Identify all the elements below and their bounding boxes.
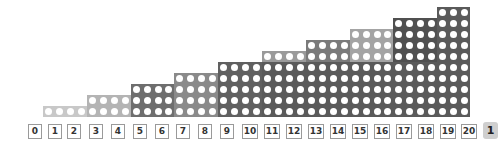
dot-cell: [251, 95, 262, 106]
dot-cell: [273, 106, 284, 117]
dot-cell: [109, 95, 120, 106]
dot-icon: [308, 97, 315, 104]
dot-icon: [100, 108, 107, 115]
dot-cell: [207, 106, 218, 117]
dot-icon: [275, 64, 282, 71]
dot-icon: [286, 108, 293, 115]
dot-icon: [56, 108, 63, 115]
dot-icon: [176, 75, 183, 82]
dot-icon: [461, 97, 468, 104]
dot-cell: [339, 73, 350, 84]
dot-cell: [317, 84, 328, 95]
dot-icon: [374, 86, 381, 93]
dot-cell: [361, 84, 372, 95]
number-box: 15: [352, 124, 368, 139]
dot-icon: [428, 31, 435, 38]
dot-icon: [417, 31, 424, 38]
dot-cell: [426, 106, 437, 117]
dot-icon: [242, 108, 249, 115]
dot-cell: [393, 62, 404, 73]
dot-icon: [187, 86, 194, 93]
dot-cell: [317, 62, 328, 73]
dot-icon: [286, 97, 293, 104]
dot-icon: [439, 53, 446, 60]
number-box: 12: [286, 124, 302, 139]
dot-icon: [275, 75, 282, 82]
dot-cell: [163, 95, 174, 106]
dot-cell: [382, 84, 393, 95]
number-box: 9: [220, 124, 234, 139]
dot-cell: [361, 95, 372, 106]
dot-icon: [363, 31, 370, 38]
dot-icon: [395, 42, 402, 49]
dot-cell: [459, 51, 470, 62]
dot-icon: [384, 64, 391, 71]
dot-cell: [361, 73, 372, 84]
dot-cell: [131, 84, 142, 95]
dot-cell: [382, 106, 393, 117]
dot-icon: [374, 31, 381, 38]
dot-cell: [459, 106, 470, 117]
dot-staircase-diagram: 01234567891011121314151617181920 1: [0, 0, 500, 151]
number-box: 7: [176, 124, 190, 139]
dot-icon: [187, 75, 194, 82]
dot-cell: [339, 51, 350, 62]
dot-icon: [395, 75, 402, 82]
dot-cell: [207, 95, 218, 106]
dot-cell: [273, 84, 284, 95]
dot-icon: [406, 86, 413, 93]
dot-icon: [384, 97, 391, 104]
dot-icon: [406, 75, 413, 82]
dot-cell: [109, 106, 120, 117]
dot-cell: [426, 95, 437, 106]
dot-icon: [428, 64, 435, 71]
dot-icon: [209, 86, 216, 93]
dot-cell: [382, 62, 393, 73]
dot-icon: [352, 86, 359, 93]
dot-cell: [43, 106, 54, 117]
dot-icon: [417, 108, 424, 115]
dot-icon: [406, 108, 413, 115]
dot-icon: [187, 108, 194, 115]
dot-icon: [264, 97, 271, 104]
dot-icon: [363, 108, 370, 115]
dot-cell: [382, 29, 393, 40]
dot-cell: [163, 106, 174, 117]
dot-icon: [165, 97, 172, 104]
dot-icon: [395, 20, 402, 27]
dot-cell: [350, 51, 361, 62]
dot-icon: [198, 97, 205, 104]
dot-icon: [209, 108, 216, 115]
dot-cell: [65, 106, 76, 117]
dot-cell: [404, 62, 415, 73]
dot-cell: [339, 106, 350, 117]
dot-cell: [404, 106, 415, 117]
dot-cell: [185, 73, 196, 84]
dot-cell: [317, 73, 328, 84]
dot-cell: [426, 40, 437, 51]
dot-icon: [450, 108, 457, 115]
dot-icon: [297, 97, 304, 104]
dot-cell: [295, 51, 306, 62]
dot-cell: [415, 18, 426, 29]
dot-icon: [122, 108, 129, 115]
dot-cell: [295, 73, 306, 84]
dot-icon: [209, 75, 216, 82]
dot-icon: [67, 108, 74, 115]
dot-cell: [142, 84, 153, 95]
number-box: 6: [155, 124, 169, 139]
dot-cell: [426, 18, 437, 29]
number-box: 1: [48, 124, 62, 139]
dot-icon: [330, 97, 337, 104]
dot-cell: [393, 40, 404, 51]
dot-cell: [284, 84, 295, 95]
dot-cell: [273, 95, 284, 106]
dot-cell: [262, 106, 273, 117]
dot-cell: [372, 106, 383, 117]
dot-icon: [406, 42, 413, 49]
dot-cell: [229, 62, 240, 73]
dot-icon: [439, 64, 446, 71]
dot-icon: [406, 97, 413, 104]
dot-cell: [87, 106, 98, 117]
number-box: 4: [111, 124, 125, 139]
